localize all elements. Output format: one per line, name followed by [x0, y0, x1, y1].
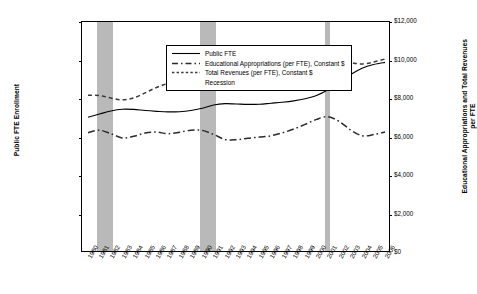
- y-axis-tick-mark: [79, 215, 82, 216]
- series-educational-appropriations: [88, 117, 385, 140]
- dotted-line-key: [171, 68, 201, 77]
- chart-legend: Public FTE Educational Appropriations (p…: [166, 45, 352, 91]
- y-axis-tick-mark: [79, 176, 82, 177]
- legend-item-recession: Recession: [171, 78, 345, 88]
- y-axis-right-tick-label: $4,000: [394, 171, 413, 178]
- legend-item-total-revenues: Total Revenues (per FTE), Constant $: [171, 68, 345, 78]
- y-axis-tick-mark: [389, 138, 392, 139]
- y-axis-left-title: Public FTE Enrollment: [13, 45, 21, 195]
- y-axis-right-tick-label: $10,000: [394, 56, 417, 63]
- y-axis-tick-mark: [79, 99, 82, 100]
- legend-label: Total Revenues (per FTE), Constant $: [205, 69, 313, 76]
- y-axis-right-tick-label: $2,000: [394, 210, 413, 217]
- legend-item-public-fte: Public FTE: [171, 49, 345, 59]
- legend-label: Recession: [205, 79, 235, 86]
- y-axis-right-tick-label: $6,000: [394, 133, 413, 140]
- y-axis-tick-mark: [79, 22, 82, 23]
- y-axis-tick-mark: [389, 176, 392, 177]
- y-axis-tick-mark: [389, 22, 392, 23]
- legend-item-educational-appropriations: Educational Appropriations (per FTE), Co…: [171, 59, 345, 69]
- legend-label: Educational Appropriations (per FTE), Co…: [205, 60, 345, 67]
- y-axis-right-title: Educational Appropriations and Total Rev…: [461, 36, 477, 196]
- y-axis-tick-mark: [389, 99, 392, 100]
- y-axis-tick-mark: [79, 138, 82, 139]
- legend-label: Public FTE: [205, 50, 236, 57]
- dash-dot-line-key: [171, 59, 201, 68]
- y-axis-right-tick-label: $8,000: [394, 94, 413, 101]
- y-axis-right-tick-label: $12,000: [394, 17, 417, 24]
- gray-swatch-key: [171, 78, 201, 87]
- solid-line-key: [171, 49, 201, 58]
- y-axis-tick-mark: [389, 215, 392, 216]
- y-axis-tick-mark: [79, 61, 82, 62]
- plot-area: Public FTE Educational Appropriations (p…: [81, 21, 390, 252]
- y-axis-tick-mark: [389, 61, 392, 62]
